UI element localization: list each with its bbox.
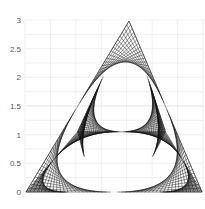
y-tick-label: 1.5 (10, 102, 22, 111)
y-tick-label: 2.5 (10, 45, 22, 54)
y-tick-label: 3 (17, 16, 22, 25)
string-line (129, 21, 202, 192)
chart: 00.511.522.53 (0, 0, 205, 209)
string-line (166, 132, 182, 159)
string-line (126, 127, 164, 132)
y-tick-label: 1 (17, 131, 22, 140)
y-tick-label: 2 (17, 73, 22, 82)
string-line (79, 129, 120, 132)
y-tick-label: 0 (17, 188, 22, 197)
string-line (164, 132, 181, 158)
string-art-pattern (26, 21, 202, 192)
y-axis-ticks: 00.511.522.53 (10, 16, 22, 197)
string-line (26, 21, 129, 192)
y-tick-label: 0.5 (10, 159, 22, 168)
